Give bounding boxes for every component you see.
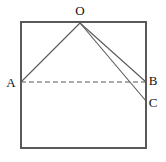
vertex-label-A: A	[6, 75, 16, 90]
figure-canvas: O A B C	[0, 0, 166, 162]
vertex-label-C: C	[149, 95, 158, 110]
vertex-label-O: O	[75, 3, 84, 18]
segment-OC	[80, 23, 146, 101]
segment-OB	[80, 23, 146, 82]
vertex-label-B: B	[149, 73, 158, 88]
outer-rectangle	[21, 22, 146, 148]
geometry-figure: O A B C	[0, 0, 166, 162]
segment-OA	[21, 23, 80, 82]
